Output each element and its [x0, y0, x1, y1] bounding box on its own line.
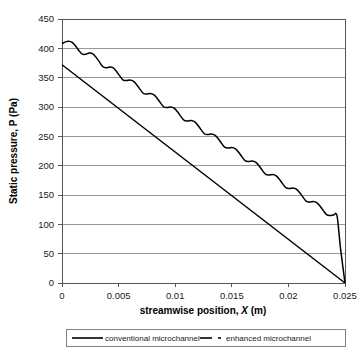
- y-tick-label: 300: [38, 101, 54, 112]
- y-tick-label: 150: [38, 189, 54, 200]
- plot-background: [62, 19, 345, 283]
- x-tick-label: 0.01: [166, 290, 185, 301]
- legend-label-enhanced: enhanced microchannel: [226, 334, 311, 343]
- y-axis-ticks: 050100150200250300350400450: [38, 13, 62, 288]
- chart-figure: 050100150200250300350400450 00.0050.010.…: [0, 0, 363, 355]
- x-tick-label: 0.02: [279, 290, 298, 301]
- legend: conventional microchannel enhanced micro…: [66, 329, 345, 346]
- legend-label-conventional: conventional microchannel: [105, 334, 200, 343]
- y-tick-label: 350: [38, 72, 54, 83]
- x-axis-title: streamwise position, X (m): [140, 305, 267, 316]
- x-axis-ticks: 00.0050.010.0150.020.025: [59, 283, 357, 301]
- y-tick-label: 200: [38, 160, 54, 171]
- y-tick-label: 450: [38, 13, 54, 24]
- y-tick-label: 400: [38, 43, 54, 54]
- y-tick-label: 100: [38, 219, 54, 230]
- y-tick-label: 0: [49, 277, 54, 288]
- static-pressure-line-chart: 050100150200250300350400450 00.0050.010.…: [0, 0, 363, 355]
- x-tick-label: 0: [59, 290, 64, 301]
- x-tick-label: 0.005: [107, 290, 131, 301]
- y-tick-label: 250: [38, 131, 54, 142]
- y-axis-title: Static pressure, P (Pa): [8, 98, 19, 204]
- x-tick-label: 0.015: [220, 290, 244, 301]
- y-tick-label: 50: [43, 248, 54, 259]
- x-tick-label: 0.025: [333, 290, 357, 301]
